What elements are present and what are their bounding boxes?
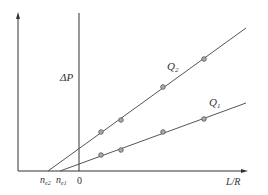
y-axis-arrow-icon	[16, 12, 20, 19]
q1-label: Q1	[209, 96, 220, 110]
x-axis-label: L/R	[225, 176, 240, 187]
q1-point	[119, 148, 124, 153]
q2-point	[99, 130, 104, 135]
ne2-tick-label: ne2	[40, 174, 51, 186]
q1-point	[99, 153, 104, 158]
ne1-tick-label: ne1	[56, 174, 67, 186]
q1-point	[161, 130, 166, 135]
chart: ΔP L/R Q2 Q1 ne2 ne1 0	[0, 0, 268, 195]
y-axis-label: ΔP	[59, 71, 73, 83]
zero-tick-label: 0	[77, 175, 82, 186]
q1-line	[60, 103, 246, 171]
q2-label: Q2	[167, 60, 179, 74]
q2-point	[202, 57, 207, 62]
q2-point	[161, 85, 166, 90]
x-axis-arrow-icon	[241, 169, 248, 173]
q1-point	[202, 117, 207, 122]
q2-point	[119, 118, 124, 123]
